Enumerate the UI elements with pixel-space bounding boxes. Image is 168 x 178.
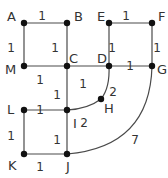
node-label-j: J (65, 159, 70, 174)
edge-weight-i-j: 1 (53, 133, 61, 147)
node-g (149, 63, 155, 69)
node-label-h: H (104, 101, 114, 116)
edge-weight-f-g: 1 (153, 41, 161, 55)
graph-diagram: 11111111111111227 ABEFMCDGHLIKJ (0, 0, 168, 178)
edge-weight-a-b: 1 (38, 9, 46, 23)
edge-h-i (67, 99, 101, 110)
node-i (64, 107, 70, 113)
node-label-b: B (74, 9, 83, 24)
node-k (21, 151, 27, 157)
node-label-l: L (7, 102, 15, 117)
edge-weight-d-g: 1 (126, 59, 134, 73)
node-e (106, 20, 112, 26)
node-label-g: G (157, 62, 167, 77)
edge-weight-g-j: 7 (131, 133, 139, 147)
edge-weight-c-d: 1 (79, 77, 87, 91)
edge-weight-m-c: 1 (36, 73, 44, 87)
edge-weight-l-k: 1 (7, 129, 15, 143)
edge-weight-a-m: 1 (7, 41, 15, 55)
edge-weight-d-h: 2 (109, 85, 117, 99)
node-m (21, 63, 27, 69)
node-j (64, 151, 70, 157)
edge-weight-b-c: 1 (51, 41, 59, 55)
node-label-i: I (73, 116, 77, 131)
node-label-e: E (97, 9, 105, 24)
edge-weight-e-f: 1 (122, 9, 130, 23)
node-label-k: K (8, 158, 17, 173)
node-l (21, 107, 27, 113)
edge-weight-h-i: 2 (80, 116, 88, 130)
edge-weight-e-d: 1 (108, 41, 116, 55)
edge-d-h (101, 66, 109, 99)
edge-weights-group: 11111111111111227 (7, 9, 161, 174)
edge-weight-c-i: 1 (53, 88, 61, 102)
node-label-d: D (97, 51, 107, 66)
node-label-a: A (7, 9, 16, 24)
edge-weight-k-j: 1 (36, 160, 44, 174)
node-label-m: M (5, 62, 16, 77)
node-a (21, 20, 27, 26)
node-labels-group: ABEFMCDGHLIKJ (5, 9, 167, 174)
node-label-c: C (69, 51, 78, 66)
edge-weight-l-i: 1 (36, 103, 44, 117)
node-b (64, 20, 70, 26)
node-f (149, 20, 155, 26)
node-label-f: F (158, 9, 165, 24)
